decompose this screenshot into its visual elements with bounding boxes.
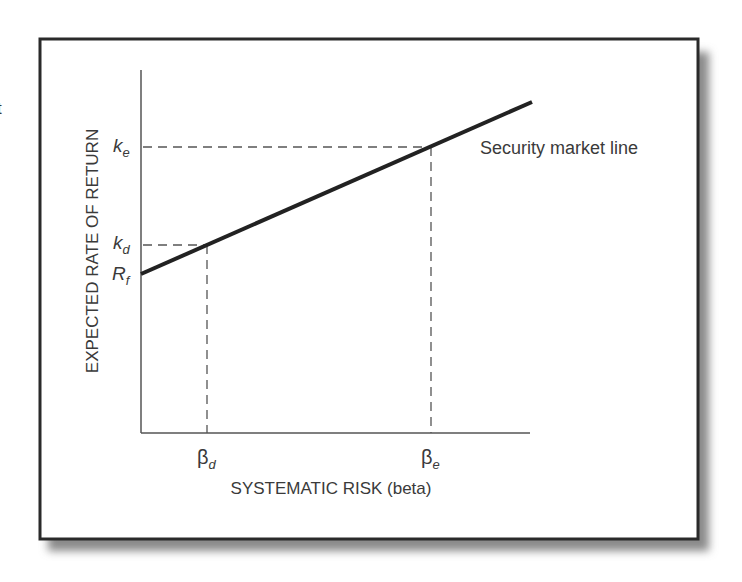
sml-annotation: Security market line [480, 138, 638, 158]
y-axis-title: EXPECTED RATE OF RETURN [83, 129, 102, 373]
sml-diagram: t Security market line ke kd Rf βd βe SY… [0, 0, 742, 582]
x-axis-title: SYSTEMATIC RISK (beta) [231, 479, 432, 498]
cropped-text-fragment: t [0, 99, 2, 118]
figure-canvas: t Security market line ke kd Rf βd βe SY… [0, 0, 742, 582]
figure-frame [40, 39, 698, 539]
